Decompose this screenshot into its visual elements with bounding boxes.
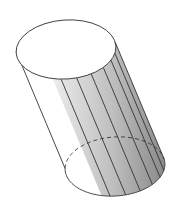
cylinder-svg	[0, 0, 178, 222]
oblique-cylinder-diagram	[0, 0, 178, 222]
